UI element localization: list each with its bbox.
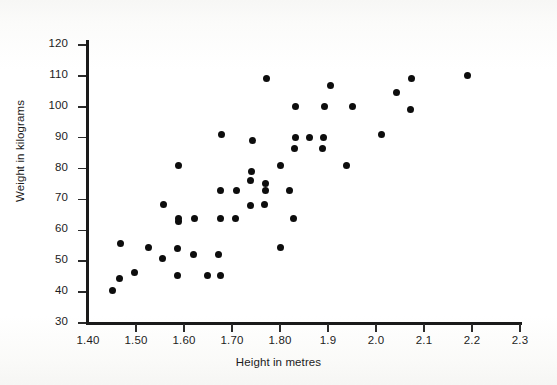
data-point bbox=[277, 244, 284, 251]
y-tick-label: 30 bbox=[8, 315, 68, 327]
data-point bbox=[290, 215, 297, 222]
x-tick-mark bbox=[327, 324, 329, 332]
data-point bbox=[292, 134, 299, 141]
data-point bbox=[232, 215, 239, 222]
data-point bbox=[291, 145, 298, 152]
y-tick-mark bbox=[78, 260, 86, 262]
y-tick-label: 40 bbox=[8, 284, 68, 296]
data-point bbox=[217, 187, 224, 194]
data-point bbox=[262, 180, 269, 187]
data-point bbox=[191, 215, 198, 222]
data-point bbox=[247, 177, 254, 184]
data-point bbox=[292, 103, 299, 110]
y-tick-label: 120 bbox=[8, 37, 68, 49]
data-point bbox=[174, 272, 181, 279]
data-point bbox=[407, 106, 414, 113]
data-point bbox=[262, 187, 269, 194]
data-point bbox=[217, 215, 224, 222]
y-tick-mark bbox=[78, 168, 86, 170]
data-point bbox=[464, 72, 471, 79]
data-point bbox=[204, 272, 211, 279]
y-tick-mark bbox=[78, 106, 86, 108]
data-point bbox=[306, 134, 313, 141]
y-axis-title: Weight in kilograms bbox=[14, 51, 26, 251]
plot-area bbox=[88, 45, 520, 323]
x-tick-mark bbox=[231, 324, 233, 332]
y-tick-label: 50 bbox=[8, 253, 68, 265]
x-tick-mark bbox=[375, 324, 377, 332]
data-point bbox=[408, 75, 415, 82]
data-point bbox=[131, 269, 138, 276]
data-point bbox=[175, 215, 182, 222]
data-point bbox=[261, 201, 268, 208]
y-tick-mark bbox=[78, 44, 86, 46]
data-point bbox=[109, 287, 116, 294]
y-tick-mark bbox=[78, 199, 86, 201]
data-point bbox=[175, 162, 182, 169]
data-point bbox=[145, 244, 152, 251]
data-point bbox=[378, 131, 385, 138]
scatter-plot-figure: 30405060708090100110120 1.401.501.601.70… bbox=[0, 0, 557, 385]
data-point bbox=[248, 168, 255, 175]
chart-canvas: 30405060708090100110120 1.401.501.601.70… bbox=[0, 0, 557, 385]
data-point bbox=[321, 103, 328, 110]
y-tick-mark bbox=[78, 322, 86, 324]
x-tick-mark bbox=[183, 324, 185, 332]
y-tick-mark bbox=[78, 291, 86, 293]
data-point bbox=[218, 131, 225, 138]
data-point bbox=[343, 162, 350, 169]
data-point bbox=[263, 75, 270, 82]
x-tick-mark bbox=[471, 324, 473, 332]
x-tick-mark bbox=[423, 324, 425, 332]
x-tick-mark bbox=[279, 324, 281, 332]
x-axis-title: Height in metres bbox=[0, 356, 557, 368]
data-point bbox=[247, 202, 254, 209]
x-tick-mark bbox=[519, 324, 521, 332]
data-point bbox=[319, 145, 326, 152]
data-point bbox=[190, 251, 197, 258]
data-point bbox=[116, 275, 123, 282]
data-point bbox=[217, 272, 224, 279]
data-point bbox=[174, 245, 181, 252]
y-tick-mark bbox=[78, 75, 86, 77]
data-point bbox=[349, 103, 356, 110]
x-tick-mark bbox=[135, 324, 137, 332]
data-point bbox=[277, 162, 284, 169]
y-tick-mark bbox=[78, 137, 86, 139]
data-point bbox=[215, 251, 222, 258]
x-tick-label: 2.3 bbox=[490, 334, 550, 346]
data-point bbox=[233, 187, 240, 194]
data-point bbox=[327, 82, 334, 89]
data-point bbox=[249, 137, 256, 144]
data-point bbox=[393, 89, 400, 96]
data-point bbox=[160, 201, 167, 208]
data-point bbox=[117, 240, 124, 247]
data-point bbox=[159, 255, 166, 262]
data-point bbox=[320, 134, 327, 141]
y-tick-mark bbox=[78, 230, 86, 232]
data-point bbox=[286, 187, 293, 194]
